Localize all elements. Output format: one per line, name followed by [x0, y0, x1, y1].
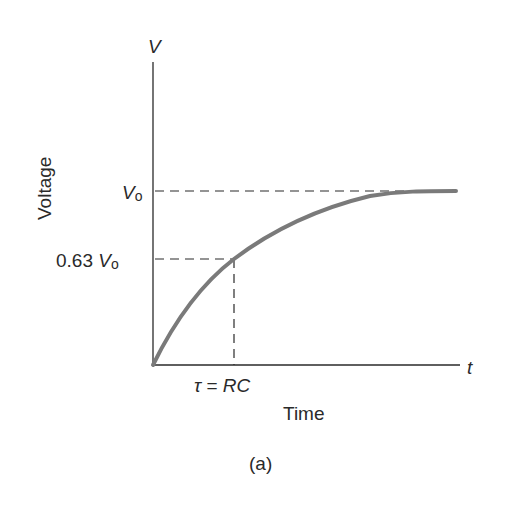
v0-label: Vo [122, 182, 143, 204]
y-axis-title: Voltage [34, 157, 55, 220]
x-axis-symbol: t [467, 357, 473, 378]
y-axis-symbol: V [148, 36, 163, 57]
charging-curve [153, 191, 456, 365]
charging-curve-diagram: V t Voltage Vo 0.63 Vo τ = RC Time (a) [0, 0, 509, 505]
tau-label: τ = RC [194, 375, 250, 396]
figure-caption: (a) [249, 453, 272, 474]
x-axis-title: Time [283, 403, 325, 424]
v063-label: 0.63 Vo [56, 250, 119, 272]
